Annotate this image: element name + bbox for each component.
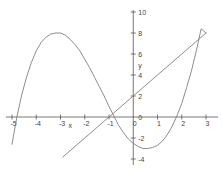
x-tick-label: -3 (59, 120, 65, 127)
x-tick-label: -2 (83, 120, 89, 127)
x-tick-label: 3 (206, 120, 210, 127)
x-tick-label: 0 (133, 120, 137, 127)
y-tick-label: -2 (138, 135, 144, 142)
x-tick-label: 2 (181, 120, 185, 127)
series-cubic-curve (12, 29, 206, 149)
y-tick-label: 2 (138, 93, 142, 100)
y-tick-label: 0 (138, 114, 142, 121)
y-tick-label: -4 (138, 156, 144, 163)
y-tick-label: 10 (138, 9, 146, 16)
y-tick-label: 4 (138, 72, 142, 79)
y-axis-label: y (138, 62, 142, 70)
x-tick-label: -1 (107, 120, 113, 127)
y-tick-label: 6 (138, 51, 142, 58)
y-tick-label: 8 (138, 30, 142, 37)
chart-container: -5-4-3-2-10123-4-20246810xy (0, 0, 223, 174)
x-tick-label: -4 (35, 120, 41, 127)
x-axis-label: x (68, 122, 72, 129)
x-tick-label: 1 (157, 120, 161, 127)
chart-plot-area: -5-4-3-2-10123-4-20246810xy (0, 0, 223, 174)
